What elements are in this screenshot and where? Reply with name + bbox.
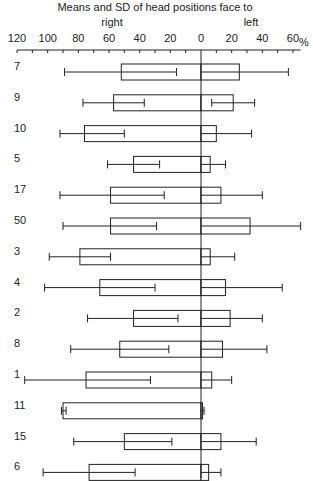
chart-title: Means and SD of head positions face to [57, 1, 252, 13]
x-axis: 120100806040200204060 [8, 32, 301, 53]
row-label: 1 [14, 368, 20, 380]
row-label: 50 [14, 214, 26, 226]
x-tick-label: 40 [134, 32, 146, 44]
row-label: 6 [14, 460, 20, 472]
row-label: 9 [14, 91, 20, 103]
row-label: 2 [14, 306, 20, 318]
x-tick-label: 60 [287, 32, 299, 44]
direction-label-left: left [244, 16, 259, 28]
row-label: 15 [14, 430, 26, 442]
data-row: 1 [14, 368, 232, 388]
x-tick-label: 20 [164, 32, 176, 44]
data-row: 8 [14, 337, 267, 357]
row-label: 4 [14, 276, 20, 288]
row-label: 5 [14, 152, 20, 164]
x-tick-label: 0 [198, 32, 204, 44]
x-tick-label: 100 [39, 32, 57, 44]
direction-label-right: right [101, 16, 122, 28]
plot-area: 7910517503428111156 [14, 50, 301, 480]
bar-right [63, 403, 201, 419]
unit-label: % [299, 36, 309, 48]
data-row: 17 [14, 183, 262, 203]
chart: Means and SD of head positions face to r… [0, 0, 313, 481]
x-tick-label: 120 [8, 32, 26, 44]
data-row: 5 [14, 152, 226, 172]
data-row: 3 [14, 245, 235, 265]
data-row: 10 [14, 122, 252, 142]
data-row: 2 [14, 306, 262, 326]
x-tick-label: 40 [256, 32, 268, 44]
data-row: 4 [14, 276, 282, 296]
data-row: 15 [14, 430, 256, 450]
row-label: 3 [14, 245, 20, 257]
row-label: 7 [14, 60, 20, 72]
data-row: 9 [14, 91, 255, 111]
x-tick-label: 80 [72, 32, 84, 44]
data-row: 50 [14, 214, 301, 234]
data-row: 6 [14, 460, 221, 480]
data-row: 11 [14, 399, 204, 419]
row-label: 11 [14, 399, 25, 411]
data-row: 7 [14, 60, 288, 80]
row-label: 17 [14, 183, 26, 195]
x-tick-label: 60 [103, 32, 115, 44]
x-tick-label: 20 [226, 32, 238, 44]
row-label: 10 [14, 122, 26, 134]
row-label: 8 [14, 337, 20, 349]
